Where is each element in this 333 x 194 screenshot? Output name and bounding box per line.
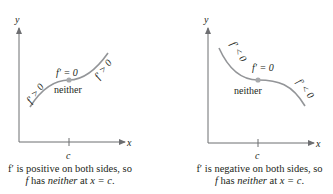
- right-y-label: y: [203, 14, 209, 25]
- right-curve: [219, 48, 305, 106]
- right-caption-line2: f has neither at x = c.: [186, 175, 333, 187]
- right-graph: y x c f′ = 0 neither f′ < 0 f′ < 0: [203, 14, 321, 161]
- right-x-label: x: [315, 138, 321, 149]
- left-x-label: x: [126, 137, 132, 148]
- left-c-label: c: [66, 150, 71, 161]
- left-caption: f′ is positive on both sides, so f has n…: [0, 163, 140, 187]
- left-slope-label-right: f′ > 0: [92, 57, 114, 81]
- right-neither-label: neither: [234, 85, 262, 96]
- right-point-label: f′ = 0: [252, 62, 274, 73]
- left-y-label: y: [14, 14, 20, 25]
- right-critical-point: [255, 77, 260, 82]
- right-c-label: c: [255, 150, 260, 161]
- left-neither-label: neither: [54, 84, 82, 95]
- left-critical-point: [66, 77, 71, 82]
- left-caption-line2: f has neither at x = c.: [0, 175, 140, 187]
- left-point-label: f′ = 0: [56, 67, 78, 78]
- right-slope-label-left: f′ < 0: [228, 39, 249, 63]
- right-caption: f′ is negative on both sides, so f has n…: [186, 163, 333, 187]
- left-caption-line1: f′ is positive on both sides, so: [0, 163, 140, 175]
- left-graph: y x c f′ = 0 neither f′ > 0 f′ > 0: [14, 14, 132, 161]
- left-slope-label-left: f′ > 0: [24, 81, 46, 105]
- right-caption-line1: f′ is negative on both sides, so: [186, 163, 333, 175]
